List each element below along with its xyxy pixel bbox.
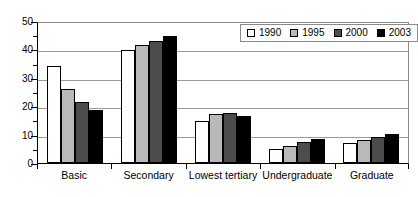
legend-item-2000: 2000 [334,28,368,38]
bar [163,36,177,163]
bar [121,50,135,163]
bar-group [186,22,260,163]
x-axis-label-graduate: Graduate [350,170,394,182]
bar [297,142,311,163]
bar [343,143,357,163]
x-separator-tick [186,164,187,169]
bar-group [112,22,186,163]
legend-item-2003: 2003 [377,28,411,38]
x-axis-label-lowest-tertiary: Lowest tertiary [189,170,257,182]
bar [149,41,163,163]
legend: 1990199520002003 [240,24,418,42]
bar [209,114,223,163]
bar [47,66,61,163]
x-separator-tick [37,164,38,169]
bar [311,139,325,163]
x-axis-labels: BasicSecondaryLowest tertiaryUndergradua… [37,170,409,186]
bar [283,146,297,163]
bar [237,116,251,163]
legend-swatch-icon-1995 [290,29,298,37]
bar [135,45,149,163]
bar [75,102,89,163]
x-axis-label-basic: Basic [61,170,87,182]
bar [61,89,75,163]
bar [357,140,371,163]
legend-item-1990: 1990 [247,28,281,38]
bar [89,110,103,163]
x-separator-tick [408,164,409,169]
bar [269,149,283,163]
legend-label-1995: 1995 [302,28,324,38]
x-separator-tick [335,164,336,169]
x-axis-label-secondary: Secondary [123,170,173,182]
x-axis-label-undergraduate: Undergraduate [262,170,332,182]
bars-layer [38,22,408,163]
legend-item-1995: 1995 [290,28,324,38]
legend-swatch-icon-2003 [377,29,385,37]
y-axis-ticks [0,22,37,164]
bar-group [334,22,408,163]
bar [195,121,209,163]
legend-swatch-icon-1990 [247,29,255,37]
bar [385,134,399,163]
bar [223,113,237,163]
x-separator-tick [260,164,261,169]
bar [371,137,385,163]
legend-label-1990: 1990 [259,28,281,38]
bar-group [260,22,334,163]
legend-label-2003: 2003 [389,28,411,38]
legend-swatch-icon-2000 [334,29,342,37]
legend-label-2000: 2000 [346,28,368,38]
x-separator-tick [111,164,112,169]
bar-group [38,22,112,163]
